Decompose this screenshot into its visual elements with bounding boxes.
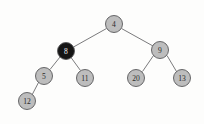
tree-edges-group [33,29,177,95]
tree-node-label: 11 [81,74,89,83]
tree-node[interactable]: 4 [106,16,123,33]
tree-edge [122,29,154,47]
tree-node-label: 20 [132,74,140,83]
tree-edge [71,58,81,71]
tree-edge [74,29,107,48]
tree-node[interactable]: 8 [58,43,75,60]
tree-node[interactable]: 5 [36,68,53,85]
tree-node[interactable]: 12 [19,93,36,110]
tree-node-label: 12 [23,97,31,106]
tree-edge [33,83,39,95]
tree-node[interactable]: 11 [77,70,94,87]
tree-node-label: 13 [178,74,186,83]
tree-edge [167,56,177,72]
tree-node-label: 4 [112,20,116,29]
binary-tree-diagram: 489511201312 [0,0,204,124]
tree-edge [50,57,60,70]
tree-node-label: 9 [158,46,162,55]
tree-edge [143,56,154,72]
tree-node-label: 5 [42,72,46,81]
tree-node[interactable]: 9 [152,42,169,59]
tree-node[interactable]: 13 [174,70,191,87]
tree-node-label: 8 [64,47,68,56]
tree-canvas: 489511201312 [0,0,204,124]
tree-node[interactable]: 20 [128,70,145,87]
